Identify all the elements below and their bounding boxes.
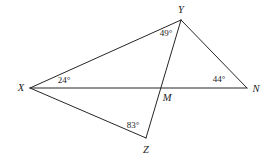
segment-XZ: [30, 88, 146, 138]
geometry-diagram: X Y N M Z 24° 49° 44° 83°: [0, 0, 269, 161]
vertex-label-M: M: [163, 93, 172, 104]
vertex-label-N: N: [252, 84, 259, 95]
vertex-label-Z: Z: [143, 145, 149, 156]
angle-label-y: 49°: [160, 29, 173, 38]
diagram-canvas: [0, 0, 269, 161]
segment-YZ: [146, 20, 181, 138]
angle-label-n: 44°: [213, 75, 226, 84]
segment-XY: [30, 20, 181, 88]
angle-label-z: 83°: [127, 121, 140, 130]
vertex-label-X: X: [18, 83, 24, 94]
angle-label-x: 24°: [58, 76, 71, 85]
vertex-label-Y: Y: [178, 5, 184, 16]
